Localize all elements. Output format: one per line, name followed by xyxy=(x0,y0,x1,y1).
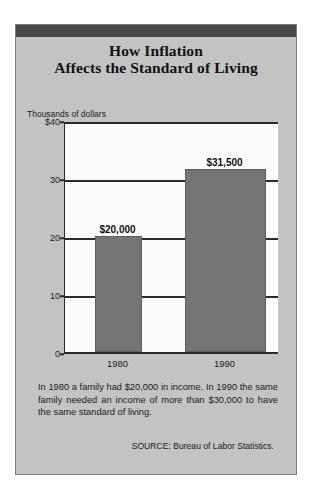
bar-value-1980: $20,000 xyxy=(99,224,135,235)
bar-value-1990: $31,500 xyxy=(206,157,242,168)
y-tick-label: 10 xyxy=(50,291,60,301)
chart-title-line-2: Affects the Standard of Living xyxy=(16,59,296,76)
header-band xyxy=(16,25,296,37)
x-tick-label-1990: 1990 xyxy=(214,358,235,369)
plot-area xyxy=(64,122,278,354)
y-axis-title: Thousands of dollars xyxy=(27,109,106,119)
y-tick-label: 20 xyxy=(50,233,60,243)
y-tick-label: 30 xyxy=(50,175,60,185)
x-axis-labels: 19801990 xyxy=(64,358,278,372)
y-axis-ticks: 0102030$40 xyxy=(27,122,60,354)
x-axis-line xyxy=(65,352,278,355)
bar-1990 xyxy=(185,169,266,352)
chart-title-line-1: How Inflation xyxy=(16,42,296,59)
chart-caption: In 1980 a family had $20,000 in income. … xyxy=(38,381,278,419)
bar-1980 xyxy=(95,236,142,352)
chart-title: How Inflation Affects the Standard of Li… xyxy=(16,42,296,76)
gridline xyxy=(65,122,278,124)
source-note: SOURCE: Bureau of Labor Statistics. xyxy=(132,441,274,451)
x-tick-label-1980: 1980 xyxy=(107,358,128,369)
chart-figure: How Inflation Affects the Standard of Li… xyxy=(15,24,297,475)
y-tick-label: $40 xyxy=(45,117,60,127)
